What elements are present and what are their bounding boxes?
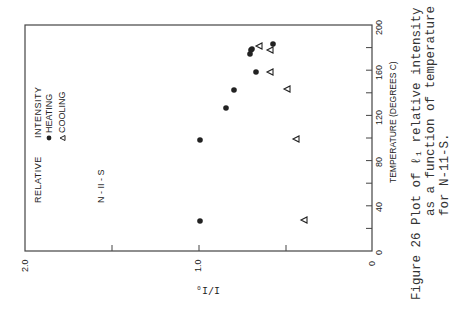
- x-tick-120: 120: [374, 110, 384, 125]
- y-tick-1: 1.0: [193, 259, 203, 272]
- temperature-axis-ticks: [366, 48, 372, 229]
- data-point-cooling: [293, 136, 299, 142]
- legend-cooling-label: COOLING: [57, 91, 67, 133]
- y-axis-title: I/I₀: [196, 284, 220, 295]
- data-point-cooling: [256, 43, 262, 49]
- y-tick-0: 0: [367, 261, 377, 266]
- data-point-cooling: [301, 217, 307, 223]
- x-tick-160: 160: [374, 65, 384, 80]
- y-tick-2: 2.0: [20, 259, 30, 272]
- x-axis-title: TEMPERATURE (DEGREES C): [388, 61, 398, 183]
- x-tick-0: 0: [374, 250, 384, 255]
- data-point-heating: [197, 137, 203, 143]
- data-point-cooling: [284, 86, 290, 92]
- data-point-heating: [270, 41, 276, 47]
- x-tick-200: 200: [374, 20, 384, 35]
- series-heating: [197, 41, 276, 224]
- legend-heating-label: HEATING: [44, 94, 54, 133]
- legend-title-relative: RELATIVE: [33, 156, 43, 203]
- data-point-heating: [223, 105, 229, 111]
- figure-caption-line2: as a function of temperature: [424, 6, 439, 216]
- data-point-cooling: [267, 47, 273, 53]
- intensity-axis-ticks: [112, 245, 286, 251]
- data-point-heating: [231, 87, 237, 93]
- x-tick-40: 40: [374, 202, 384, 212]
- legend-title-intensity: INTENSITY: [33, 86, 43, 138]
- series-cooling: [256, 43, 307, 223]
- legend-heating-marker: [47, 136, 52, 141]
- figure-caption-line1: Figure 26 Plot of ℓ₁ relative intensity: [410, 7, 425, 300]
- figure-caption-line3: for N-11-S.: [438, 133, 451, 216]
- legend-cooling-marker: [60, 136, 65, 141]
- x-tick-80: 80: [374, 157, 384, 167]
- data-point-cooling: [267, 69, 273, 75]
- data-point-heating: [253, 69, 259, 75]
- data-point-heating: [197, 218, 203, 224]
- sample-annotation: N - II - S: [96, 170, 106, 204]
- data-point-heating: [249, 46, 255, 52]
